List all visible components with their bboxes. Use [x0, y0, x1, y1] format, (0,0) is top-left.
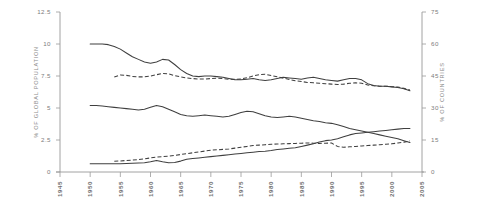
x-tick-label: 1950 — [86, 181, 93, 197]
x-tick-label: 1995 — [358, 181, 365, 197]
axes-group — [56, 12, 424, 172]
y-tick-label-right: 45 — [431, 72, 439, 79]
y-axis-left-title: % OF GLOBAL POPULATION — [33, 46, 39, 138]
x-tick-label: 1945 — [56, 181, 63, 197]
x-tick-label: 1990 — [328, 181, 335, 197]
y-tick-label-left: 5 — [47, 104, 51, 111]
y-tick-label-right: 60 — [431, 40, 439, 47]
tick-marks-group — [56, 12, 426, 177]
series-line-series-3-solid-middle — [90, 105, 410, 142]
y-axis-right-title: % OF COUNTRIES — [439, 62, 445, 121]
y-tick-label-left: 2.5 — [41, 136, 51, 143]
axis-titles-group: % OF GLOBAL POPULATION% OF COUNTRIES — [33, 46, 445, 138]
y-tick-label-left: 0 — [47, 168, 51, 175]
x-tick-label: 1960 — [147, 181, 154, 197]
x-tick-label: 1985 — [298, 181, 305, 197]
x-tick-label: 2005 — [418, 181, 425, 197]
x-tick-label: 1970 — [207, 181, 214, 197]
y-tick-label-right: 15 — [431, 136, 439, 143]
y-tick-label-left: 10 — [43, 40, 51, 47]
line-chart: 02.557.51012.501530456075194519501955196… — [0, 0, 491, 216]
tick-labels-group: 02.557.51012.501530456075194519501955196… — [37, 8, 439, 197]
x-tick-label: 2000 — [388, 181, 395, 197]
data-series-group — [90, 44, 410, 164]
x-tick-label: 1980 — [267, 181, 274, 197]
x-tick-label: 1965 — [177, 181, 184, 197]
x-tick-label: 1975 — [237, 181, 244, 197]
y-tick-label-left: 7.5 — [41, 72, 51, 79]
x-tick-label: 1955 — [117, 181, 124, 197]
y-tick-label-left: 12.5 — [37, 8, 51, 15]
chart-container: 02.557.51012.501530456075194519501955196… — [0, 0, 491, 216]
y-tick-label-right: 0 — [431, 168, 435, 175]
y-tick-label-right: 30 — [431, 104, 439, 111]
y-tick-label-right: 75 — [431, 8, 439, 15]
